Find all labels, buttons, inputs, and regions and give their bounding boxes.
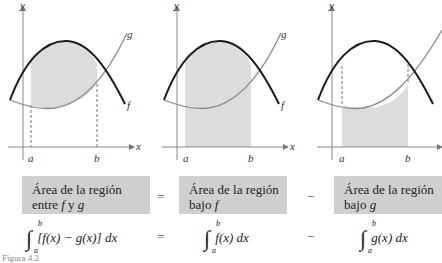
svg-text:y: y — [19, 0, 25, 11]
box-line1: Área de la región — [344, 182, 434, 197]
box-line2: bajo f — [189, 197, 279, 212]
graph-under-g: y a b — [317, 0, 442, 164]
upper-limit: b — [216, 219, 220, 228]
svg-text:y: y — [173, 0, 179, 11]
svg-text:a: a — [28, 152, 34, 164]
graph-between-f-and-g: y x a b g f — [8, 0, 141, 164]
box-line2: bajo g — [344, 197, 434, 212]
svg-text:y: y — [328, 0, 334, 11]
svg-text:b: b — [405, 152, 411, 164]
graph-under-f: y x a b g f — [162, 0, 295, 164]
integrand: [f(x) − g(x)] dx — [37, 230, 117, 245]
integral-g: ∫ b a g(x) dx — [360, 222, 408, 248]
shaded-region-under-f — [185, 41, 251, 147]
box-line2: entre f y g — [32, 197, 142, 212]
minus-sign-1: − — [307, 189, 314, 205]
graphs-area: y x a b g f y x a b g f y a b — [0, 0, 442, 180]
upper-limit: b — [372, 219, 376, 228]
lower-limit: a — [368, 246, 372, 255]
integral-f: ∫ b a f(x) dx — [204, 222, 249, 248]
label-box-under-g: Área de la región bajo g — [334, 176, 442, 214]
svg-text:a: a — [339, 152, 345, 164]
figure-caption: Figura 4.2 — [2, 253, 39, 263]
shaded-region-under-g — [342, 84, 408, 147]
svg-text:x: x — [289, 140, 295, 152]
label-box-under-f: Área de la región bajo f — [179, 176, 287, 214]
svg-text:f: f — [281, 99, 286, 111]
lower-limit: a — [212, 246, 216, 255]
svg-text:b: b — [94, 152, 100, 164]
integrand: g(x) dx — [371, 230, 407, 245]
integral-difference: ∫ b a [f(x) − g(x)] dx — [26, 222, 117, 248]
box-line1: Área de la región — [32, 182, 142, 197]
integrand: f(x) dx — [215, 230, 249, 245]
equals-sign-2: = — [157, 229, 164, 245]
svg-text:x: x — [135, 140, 141, 152]
integral-sign: ∫ — [26, 226, 32, 251]
svg-text:g: g — [281, 28, 287, 40]
svg-text:b: b — [248, 152, 254, 164]
integral-sign: ∫ — [204, 226, 210, 251]
svg-text:f: f — [127, 99, 132, 111]
svg-text:a: a — [183, 152, 189, 164]
label-box-between: Área de la región entre f y g — [22, 176, 150, 214]
minus-sign-2: − — [307, 229, 314, 245]
box-line1: Área de la región — [189, 182, 279, 197]
integral-sign: ∫ — [360, 226, 366, 251]
equals-sign-1: = — [157, 189, 164, 205]
upper-limit: b — [38, 219, 42, 228]
svg-text:g: g — [127, 28, 133, 40]
